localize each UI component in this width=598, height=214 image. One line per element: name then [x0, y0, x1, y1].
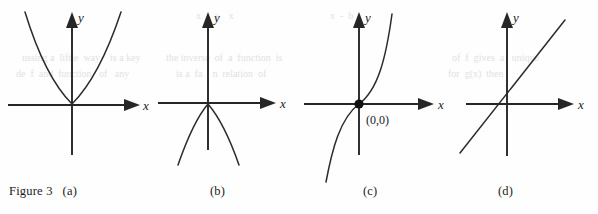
y-axis-label-c: y [363, 10, 371, 25]
y-axis-arrow-a [66, 12, 78, 28]
panel-caption-b: (b) [210, 184, 225, 199]
curve-straight-line [460, 20, 565, 153]
x-axis-label-b: x [279, 96, 286, 111]
x-axis-label-c: x [437, 97, 444, 112]
x-axis-label-d: x [577, 97, 584, 112]
x-axis-arrow-d [558, 98, 574, 110]
x-axis-arrow-c [418, 98, 434, 110]
panel-caption-d: (d) [498, 184, 513, 199]
plot-a: x y [0, 0, 150, 214]
plot-b: x y [150, 0, 302, 214]
y-axis-label-d: y [511, 10, 519, 25]
plot-c: x y (0,0) [302, 0, 450, 214]
y-axis-label-a: y [76, 10, 84, 25]
chart-panel-a: x y [0, 0, 150, 214]
figure-caption: Figure 3 (a) [9, 184, 77, 199]
x-axis-arrow-b [260, 97, 276, 109]
figure-container: ussing a liftle way is a key de f and fu… [0, 0, 598, 214]
y-axis-label-b: y [212, 10, 220, 25]
chart-panel-d: x y [450, 0, 598, 214]
x-axis-arrow-a [124, 99, 140, 111]
origin-point-dot [354, 99, 363, 108]
panel-caption-c: (c) [363, 184, 377, 199]
origin-point-label: (0,0) [366, 113, 389, 127]
chart-panel-c: x y (0,0) [302, 0, 450, 214]
y-axis-arrow-b [202, 12, 214, 28]
y-axis-arrow-d [501, 12, 513, 28]
plot-d: x y [450, 0, 598, 214]
chart-panel-b: x y [150, 0, 302, 214]
x-axis-label-a: x [142, 98, 149, 113]
y-axis-arrow-c [353, 12, 365, 28]
